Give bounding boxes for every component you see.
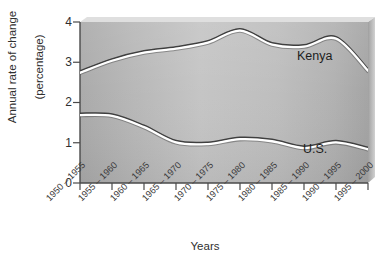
plot-canvas [0, 0, 385, 269]
series-label-kenya: Kenya [297, 49, 332, 63]
series-label-us: U.S. [303, 142, 327, 156]
x-axis-title: Years [150, 240, 260, 252]
y-tick-label-3: 3 [56, 55, 72, 69]
y-tick-label-2: 2 [56, 95, 72, 109]
chart-figure: Annual rate of change (percentage) [0, 0, 385, 269]
y-tick-label-1: 1 [56, 136, 72, 150]
y-tick-label-4: 4 [56, 15, 72, 29]
y-axis-ticks [73, 22, 80, 183]
plot-background [80, 17, 375, 183]
